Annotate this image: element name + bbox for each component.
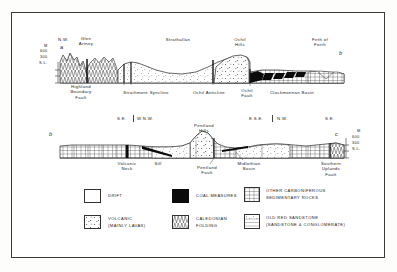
section-marker-c: c	[335, 131, 338, 138]
legend-label-old-red-sandstone: OLD RED SANDSTONE	[266, 215, 318, 221]
legend-label-caledonian-folding: CALEDONIAN	[196, 216, 227, 222]
legend-swatch-old-red-sandstone	[244, 214, 260, 229]
direction-label-nw-section-ab: N.W.	[58, 37, 69, 42]
legend-label-volcanic-2: (MAINLY LAVAS)	[108, 223, 146, 229]
direction-label-nw-section-bc: N.W.	[277, 116, 288, 121]
legend-label-coal-measures: COAL MEASURES	[196, 193, 237, 199]
legend-label-other-carboniferous: OTHER CARBONIFEROUS	[266, 188, 326, 194]
structure-label-sill: Sill	[154, 161, 161, 166]
legend-label-drift: DRIFT	[108, 193, 122, 199]
legend-swatch-coal-measures	[172, 189, 189, 203]
legend-label-old-red-sandstone-2: (SANDSTONE & CONGLOMERATE)	[266, 222, 345, 228]
structure-label-clackmannan-basin: Clackmannan Basin	[270, 90, 314, 95]
legend-swatch-volcanic	[84, 215, 101, 229]
legend-label-volcanic: VOLCANIC	[108, 216, 133, 222]
direction-label-se-left: S.E.	[117, 116, 127, 121]
structure-label-ochil-anticline: Ochil Anticline	[193, 90, 225, 95]
place-label-firth-of-forth: Firth ofForth	[312, 37, 328, 48]
geological-cross-section-figure: N.W. GlenArtney Strathallan OchilHills F…	[0, 0, 397, 272]
legend-swatch-caledonian-folding	[172, 215, 189, 229]
scale-tick-sl-ab: S.L.	[39, 61, 47, 66]
section-marker-b-start: b	[49, 131, 52, 138]
direction-divider-right	[272, 115, 273, 122]
structure-label-midlothian-basin: MidlothianBasin	[237, 161, 260, 172]
place-label-pentland-hills: PentlandHills	[194, 123, 214, 134]
structure-label-pentland-fault: PentlandFault	[197, 165, 217, 176]
legend-swatch-other-carboniferous	[244, 187, 260, 202]
structure-label-volcanic-neck: VolcanicNeck	[118, 161, 137, 172]
structure-label-ochil-fault: OchilFault	[241, 88, 253, 99]
structure-label-strathmore-syncline: Strathmore Syncline	[123, 90, 168, 95]
place-label-strathallan: Strathallan	[166, 37, 190, 42]
direction-label-ese: E.S.E.	[249, 116, 263, 121]
direction-label-wnw: W.N.W.	[137, 116, 153, 121]
legend-label-caledonian-folding-2: FOLDING	[196, 223, 217, 229]
section-marker-a: a	[60, 44, 63, 51]
direction-label-se-right: S.E.	[325, 116, 335, 121]
legend-label-other-carboniferous-2: SEDIMENTARY ROCKS	[266, 195, 318, 201]
section-marker-b-end: b	[339, 50, 342, 57]
structure-label-highland-boundary-fault: HighlandBoundaryFault	[70, 84, 91, 100]
scale-tick-sl-bc: S.L.	[352, 147, 360, 152]
structure-label-southern-uplands-fault: SouthernUplandsFault	[321, 161, 341, 177]
place-label-ochil-hills: OchilHills	[234, 37, 246, 48]
place-label-glen-artney: GlenArtney	[79, 36, 94, 47]
direction-divider-left	[133, 115, 134, 122]
legend-swatch-drift	[84, 189, 101, 203]
